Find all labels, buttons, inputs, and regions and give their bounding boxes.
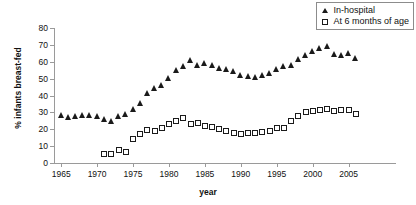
filled-triangle-icon bbox=[273, 66, 279, 72]
filled-triangle-icon bbox=[209, 62, 215, 68]
filled-triangle-icon bbox=[187, 57, 193, 63]
filled-triangle-icon bbox=[137, 100, 143, 106]
open-square-icon bbox=[137, 131, 143, 137]
y-tick bbox=[50, 163, 54, 164]
filled-triangle-icon bbox=[72, 113, 78, 119]
open-square-icon bbox=[152, 128, 158, 134]
filled-triangle-icon bbox=[130, 106, 136, 112]
legend-item-at-6-months: At 6 months of age bbox=[320, 16, 409, 27]
y-axis-title: % infants breast-fed bbox=[13, 13, 23, 163]
open-square-icon bbox=[303, 109, 309, 115]
breastfeeding-trend-chart: In-hospital At 6 months of age 010203040… bbox=[0, 0, 416, 205]
filled-triangle-icon bbox=[144, 90, 150, 96]
open-square-icon bbox=[245, 130, 251, 136]
filled-triangle-icon bbox=[94, 113, 100, 119]
x-tick-label: 2000 bbox=[298, 170, 328, 179]
filled-triangle-icon bbox=[223, 66, 229, 72]
filled-triangle-icon bbox=[101, 116, 107, 122]
x-tick-label: 1990 bbox=[226, 170, 256, 179]
filled-triangle-icon bbox=[108, 118, 114, 124]
open-square-icon bbox=[101, 151, 107, 157]
filled-triangle-icon bbox=[165, 75, 171, 81]
open-square-icon bbox=[166, 121, 172, 127]
y-tick-label: 40 bbox=[28, 92, 48, 101]
open-square-icon bbox=[346, 107, 352, 113]
open-square-icon bbox=[209, 124, 215, 130]
x-tick-label: 2005 bbox=[334, 170, 364, 179]
open-square-icon bbox=[267, 128, 273, 134]
x-tick bbox=[97, 163, 98, 167]
x-tick bbox=[241, 163, 242, 167]
open-square-icon bbox=[116, 147, 122, 153]
filled-triangle-icon bbox=[266, 70, 272, 76]
open-square-icon bbox=[123, 149, 129, 155]
open-square-icon bbox=[223, 128, 229, 134]
open-square-icon bbox=[331, 108, 337, 114]
open-square-icon bbox=[180, 115, 186, 121]
filled-triangle-icon bbox=[316, 45, 322, 51]
filled-triangle-icon bbox=[320, 6, 330, 16]
y-tick-label: 70 bbox=[28, 41, 48, 50]
x-tick-label: 1965 bbox=[46, 170, 76, 179]
chart-legend: In-hospital At 6 months of age bbox=[316, 2, 414, 30]
x-tick bbox=[133, 163, 134, 167]
open-square-icon bbox=[202, 123, 208, 129]
open-square-icon bbox=[188, 121, 194, 127]
open-square-icon bbox=[295, 113, 301, 119]
open-square-icon bbox=[317, 107, 323, 113]
y-tick-label: 60 bbox=[28, 58, 48, 67]
filled-triangle-icon bbox=[288, 62, 294, 68]
open-square-icon bbox=[195, 120, 201, 126]
x-tick-label: 1975 bbox=[118, 170, 148, 179]
open-square-icon bbox=[130, 136, 136, 142]
open-square-icon bbox=[159, 125, 165, 131]
open-square-icon bbox=[288, 118, 294, 124]
y-tick-label: 80 bbox=[28, 24, 48, 33]
open-square-icon bbox=[310, 108, 316, 114]
open-square-icon bbox=[173, 118, 179, 124]
filled-triangle-icon bbox=[115, 113, 121, 119]
filled-triangle-icon bbox=[230, 68, 236, 74]
x-tick-label: 1995 bbox=[262, 170, 292, 179]
open-square-icon bbox=[338, 107, 344, 113]
filled-triangle-icon bbox=[158, 82, 164, 88]
filled-triangle-icon bbox=[58, 112, 64, 118]
filled-triangle-icon bbox=[79, 112, 85, 118]
legend-label-at-6-months: At 6 months of age bbox=[333, 16, 409, 27]
filled-triangle-icon bbox=[194, 62, 200, 68]
open-square-icon bbox=[281, 125, 287, 131]
filled-triangle-icon bbox=[201, 60, 207, 66]
filled-triangle-icon bbox=[65, 114, 71, 120]
filled-triangle-icon bbox=[345, 50, 351, 56]
x-tick bbox=[277, 163, 278, 167]
x-tick-label: 1985 bbox=[190, 170, 220, 179]
filled-triangle-icon bbox=[180, 63, 186, 69]
filled-triangle-icon bbox=[252, 74, 258, 80]
filled-triangle-icon bbox=[245, 73, 251, 79]
filled-triangle-icon bbox=[173, 67, 179, 73]
filled-triangle-icon bbox=[352, 55, 358, 61]
filled-triangle-icon bbox=[309, 48, 315, 54]
x-tick-label: 1970 bbox=[82, 170, 112, 179]
y-tick-label: 0 bbox=[28, 159, 48, 168]
filled-triangle-icon bbox=[331, 51, 337, 57]
x-axis-line bbox=[54, 163, 396, 164]
filled-triangle-icon bbox=[237, 72, 243, 78]
filled-triangle-icon bbox=[280, 63, 286, 69]
legend-label-in-hospital: In-hospital bbox=[333, 5, 375, 16]
y-tick-label: 20 bbox=[28, 125, 48, 134]
open-square-icon bbox=[238, 131, 244, 137]
filled-triangle-icon bbox=[324, 43, 330, 49]
filled-triangle-icon bbox=[259, 72, 265, 78]
open-square-icon bbox=[353, 111, 359, 117]
y-tick-label: 50 bbox=[28, 75, 48, 84]
legend-item-in-hospital: In-hospital bbox=[320, 5, 409, 16]
filled-triangle-icon bbox=[86, 112, 92, 118]
x-tick bbox=[61, 163, 62, 167]
x-tick bbox=[169, 163, 170, 167]
filled-triangle-icon bbox=[122, 111, 128, 117]
x-axis-title: year bbox=[0, 187, 416, 197]
open-square-icon bbox=[252, 130, 258, 136]
filled-triangle-icon bbox=[338, 52, 344, 58]
open-square-icon bbox=[216, 126, 222, 132]
